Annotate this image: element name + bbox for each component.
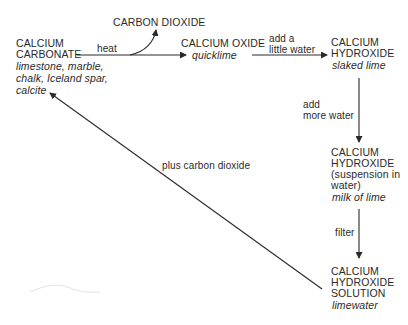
plus-co2-arrow <box>50 93 322 289</box>
edge-label-add-more-water-1: add <box>303 99 320 110</box>
calcium-hydroxide-common: slaked lime <box>332 60 386 71</box>
node-limewater-line3: SOLUTION <box>331 288 385 299</box>
calcium-carbonate-common-1: limestone, marble, <box>16 61 104 72</box>
calcium-carbonate-common-3: calcite <box>16 85 46 96</box>
paper-smudge <box>30 285 100 292</box>
edge-label-add-little-water-1: add a <box>269 33 295 44</box>
edge-label-filter: filter <box>335 227 355 238</box>
limewater-common: limewater <box>332 300 378 311</box>
calcium-carbonate-common-2: chalk, Iceland spar, <box>16 73 108 84</box>
co2-release-arrow <box>130 30 156 55</box>
node-calcium-carbonate-line2: CARBONATE <box>16 49 81 60</box>
edge-label-heat: heat <box>97 43 117 54</box>
calcium-oxide-common: quicklime <box>192 50 237 61</box>
edge-label-plus-co2: plus carbon dioxide <box>162 160 250 171</box>
node-calcium-hydroxide-line2: HYDROXIDE <box>331 48 394 59</box>
node-milk-of-lime-line4: water) <box>331 180 361 191</box>
edge-label-add-little-water-2: little water <box>269 44 315 55</box>
edge-label-add-more-water-2: more water <box>303 110 354 121</box>
node-carbon-dioxide: CARBON DIOXIDE <box>113 17 205 28</box>
milk-of-lime-common: milk of lime <box>332 192 386 203</box>
node-calcium-oxide: CALCIUM OXIDE <box>181 38 265 49</box>
